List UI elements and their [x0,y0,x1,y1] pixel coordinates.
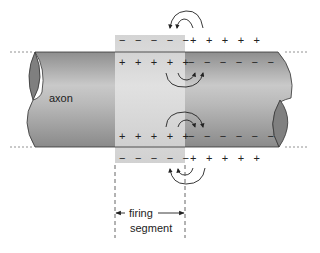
axon-left-end [29,52,40,100]
current-loop-top-outside [170,11,203,28]
charges-bottom-outside-segment: − − − − − [119,153,192,164]
firing-segment-shade [115,35,185,163]
charges-top-outside-ahead: + + + + + [190,35,263,46]
charges-top-inside-ahead: − − − − − − [188,57,277,68]
charges-top-inside-segment: + + + + + [119,57,192,68]
charges-bottom-outside-ahead: + + + + + [190,153,263,164]
charges-bottom-inside-ahead: − − − − − − [188,131,277,142]
charges-top-outside-segment: − − − − − [119,35,192,46]
axon-label: axon [49,92,73,104]
firing-label: firing [129,207,153,219]
charges-bottom-inside-segment: + + + + + [119,131,192,142]
segment-label: segment [130,222,172,234]
current-loop-bottom-outside [170,168,205,184]
